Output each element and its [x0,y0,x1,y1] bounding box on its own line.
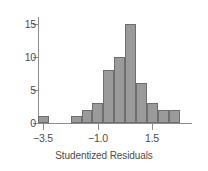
histogram-figure: 051015 −3.5−1.01.5 Studentized Residuals [0,0,208,171]
histogram-bar [169,110,180,123]
histogram-bar [158,110,169,123]
histogram-bar [71,116,82,123]
histogram-bar [147,103,158,123]
histogram-bar [136,83,147,123]
histogram-bar [82,110,93,123]
histogram-bar [38,116,49,123]
x-axis-title: Studentized Residuals [0,150,208,161]
histogram-bars [0,0,208,171]
histogram-bar [114,57,125,123]
histogram-bar [103,70,114,123]
histogram-bar [92,103,103,123]
histogram-bar [125,24,136,123]
